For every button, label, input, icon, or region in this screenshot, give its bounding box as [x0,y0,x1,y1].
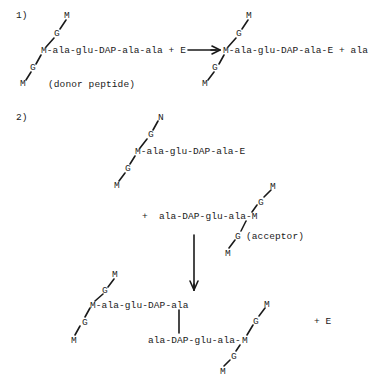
reaction-2-label: 2) [16,113,28,123]
product2-right-bottom-m: M [220,367,226,377]
donor-caption: (donor peptide) [48,80,135,90]
product2-left-bottom-g: G [82,318,88,328]
product2-plus-e: + E [314,317,331,327]
product2-left-top-m: M [112,270,118,280]
intermediate-top-g: G [148,130,154,140]
intermediate-bottom-g: G [125,164,131,174]
product2-right-top-g: G [253,317,259,327]
peptidoglycan-transpeptidation-diagram: 1) M G M-ala-glu-DAP-ala-ala + E G M (do… [0,0,372,388]
product2-left-top-g: G [102,286,108,296]
acceptor-caption: (acceptor) [246,232,304,242]
product2-right-chain: ala-DAP-glu-ala- [148,336,241,346]
product1-top-m: M [246,11,252,21]
product1-bottom-m: M [202,79,208,89]
acceptor-plus: + [142,212,148,222]
acceptor-top-m: M [270,182,276,192]
donor-bottom-m: M [20,79,26,89]
donor-top-g: G [54,29,60,39]
acceptor-bottom-g: G [235,232,241,242]
product1-chain: M-ala-glu-DAP-ala-E + ala [223,46,368,56]
product2-left-bottom-m: M [71,336,77,346]
product1-bottom-g: G [212,63,218,73]
product2-right-m: M [242,336,248,346]
acceptor-chain: ala-DAP-glu-ala-M [159,212,258,222]
product1-top-g: G [236,29,242,39]
intermediate-chain: M-ala-glu-DAP-ala-E [135,147,245,157]
product2-left-chain: M-ala-glu-DAP-ala [90,301,189,311]
acceptor-bottom-m: M [225,249,231,259]
product2-right-top-m: M [264,300,270,310]
donor-bottom-g: G [30,63,36,73]
bond-lines [0,0,372,388]
donor-top-m: M [64,11,70,21]
intermediate-bottom-m: M [114,181,120,191]
donor-chain: M-ala-glu-DAP-ala-ala + E [41,46,186,56]
product2-right-bottom-g: G [231,352,237,362]
reaction-1-label: 1) [16,11,28,21]
acceptor-top-g: G [258,198,264,208]
intermediate-top-n: N [158,113,164,123]
